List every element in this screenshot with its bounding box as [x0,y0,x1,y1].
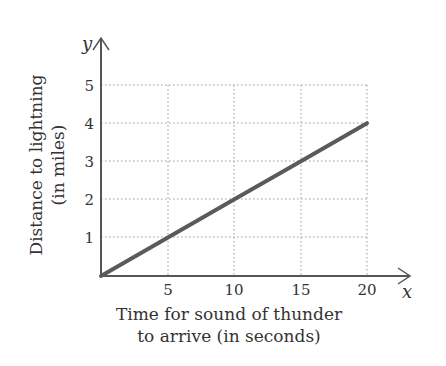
y-tick-1: 1 [84,229,94,247]
grid [101,85,367,276]
x-axis-label-line-1: Time for sound of thunder [116,304,343,324]
y-tick-4: 4 [84,115,94,133]
x-tick-labels: 5 10 15 20 [163,281,376,299]
x-axis-label-line-2: to arrive (in seconds) [137,326,321,346]
y-tick-5: 5 [84,77,94,95]
x-tick-20: 20 [357,281,376,299]
x-tick-5: 5 [163,281,173,299]
x-tick-15: 15 [291,281,310,299]
y-tick-3: 3 [84,153,94,171]
y-tick-2: 2 [84,191,94,209]
y-axis-variable: y [81,33,93,54]
y-axis-label-line-1: Distance to lightning [26,74,46,255]
x-axis-variable: x [402,281,412,302]
chart: 1 2 3 4 5 5 10 15 20 x y Time for sound … [0,0,446,366]
y-tick-labels: 1 2 3 4 5 [84,77,94,247]
x-axis-label: Time for sound of thunder to arrive (in … [116,304,343,346]
y-axis-label: Distance to lightning (in miles) [26,74,68,255]
y-axis-label-line-2: (in miles) [48,125,68,206]
x-tick-10: 10 [224,281,243,299]
